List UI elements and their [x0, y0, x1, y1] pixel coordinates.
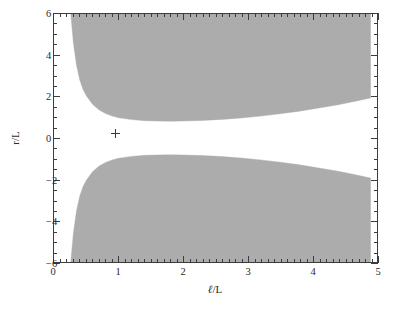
x-minor-tick — [320, 259, 321, 263]
x-major-tick — [313, 256, 314, 263]
x-minor-tick-top — [242, 13, 243, 17]
y-major-tick-right — [371, 13, 378, 14]
y-minor-tick-right — [374, 34, 378, 35]
x-minor-tick-top — [333, 13, 334, 17]
upper-shaded-region — [71, 14, 371, 121]
y-minor-tick-right — [374, 159, 378, 160]
x-major-tick-top — [118, 13, 119, 20]
x-major-tick-top — [378, 13, 379, 20]
x-minor-tick — [287, 259, 288, 263]
x-minor-tick — [144, 259, 145, 263]
x-minor-tick — [125, 259, 126, 263]
x-minor-tick — [190, 259, 191, 263]
figure-container: 012345 6420−2−4−6 ℓ/L r/L — [0, 0, 400, 310]
x-minor-tick-top — [274, 13, 275, 17]
y-major-tick-right — [371, 96, 378, 97]
x-major-tick-top — [53, 13, 54, 20]
x-minor-tick-top — [131, 13, 132, 17]
x-minor-tick-top — [86, 13, 87, 17]
x-major-tick — [183, 256, 184, 263]
x-major-tick — [248, 256, 249, 263]
x-minor-tick-top — [287, 13, 288, 17]
y-major-tick — [53, 13, 60, 14]
y-minor-tick-right — [374, 211, 378, 212]
x-minor-tick — [274, 259, 275, 263]
y-minor-tick — [53, 159, 57, 160]
y-minor-tick-right — [374, 232, 378, 233]
x-minor-tick — [131, 259, 132, 263]
x-minor-tick — [112, 259, 113, 263]
y-minor-tick — [53, 76, 57, 77]
y-tick-label: −4 — [46, 216, 47, 227]
y-tick-label: 4 — [46, 49, 47, 60]
x-minor-tick — [92, 259, 93, 263]
plot-frame — [53, 13, 378, 263]
y-minor-tick-right — [374, 201, 378, 202]
x-minor-tick-top — [300, 13, 301, 17]
x-minor-tick-top — [326, 13, 327, 17]
plot-canvas — [54, 14, 377, 262]
x-tick-label: 5 — [375, 266, 380, 277]
x-minor-tick — [222, 259, 223, 263]
y-minor-tick-right — [374, 253, 378, 254]
x-minor-tick — [86, 259, 87, 263]
x-minor-tick — [235, 259, 236, 263]
x-minor-tick — [138, 259, 139, 263]
y-minor-tick-right — [374, 86, 378, 87]
x-minor-tick — [242, 259, 243, 263]
x-minor-tick — [281, 259, 282, 263]
x-minor-tick — [352, 259, 353, 263]
y-minor-tick-right — [374, 128, 378, 129]
x-minor-tick — [307, 259, 308, 263]
x-minor-tick-top — [79, 13, 80, 17]
x-minor-tick-top — [320, 13, 321, 17]
x-minor-tick-top — [73, 13, 74, 17]
x-major-tick-top — [183, 13, 184, 20]
x-minor-tick — [294, 259, 295, 263]
y-minor-tick — [53, 211, 57, 212]
x-minor-tick-top — [151, 13, 152, 17]
y-minor-tick — [53, 242, 57, 243]
x-minor-tick-top — [105, 13, 106, 17]
x-minor-tick-top — [190, 13, 191, 17]
x-minor-tick — [365, 259, 366, 263]
x-minor-tick — [229, 259, 230, 263]
y-tick-label: 2 — [46, 91, 47, 102]
y-minor-tick — [53, 65, 57, 66]
x-minor-tick-top — [294, 13, 295, 17]
y-tick-label: 0 — [46, 133, 47, 144]
y-minor-tick — [53, 23, 57, 24]
x-axis-title: ℓ/L — [208, 283, 222, 295]
x-minor-tick — [209, 259, 210, 263]
x-tick-label: 1 — [115, 266, 120, 277]
y-major-tick-right — [371, 138, 378, 139]
x-minor-tick-top — [209, 13, 210, 17]
y-major-tick-right — [371, 180, 378, 181]
x-minor-tick-top — [352, 13, 353, 17]
y-minor-tick — [53, 86, 57, 87]
x-minor-tick-top — [365, 13, 366, 17]
y-minor-tick — [53, 232, 57, 233]
x-minor-tick — [346, 259, 347, 263]
x-minor-tick — [170, 259, 171, 263]
x-minor-tick-top — [99, 13, 100, 17]
x-minor-tick — [151, 259, 152, 263]
x-minor-tick-top — [307, 13, 308, 17]
y-tick-label: 6 — [46, 8, 47, 19]
x-minor-tick-top — [222, 13, 223, 17]
x-minor-tick — [177, 259, 178, 263]
x-minor-tick — [359, 259, 360, 263]
x-minor-tick-top — [170, 13, 171, 17]
y-major-tick — [53, 138, 60, 139]
y-minor-tick — [53, 34, 57, 35]
x-minor-tick — [339, 259, 340, 263]
x-minor-tick-top — [346, 13, 347, 17]
x-minor-tick-top — [177, 13, 178, 17]
x-minor-tick-top — [235, 13, 236, 17]
x-minor-tick — [79, 259, 80, 263]
x-tick-label: 3 — [245, 266, 250, 277]
x-minor-tick-top — [268, 13, 269, 17]
x-minor-tick — [261, 259, 262, 263]
y-minor-tick — [53, 117, 57, 118]
x-minor-tick — [333, 259, 334, 263]
